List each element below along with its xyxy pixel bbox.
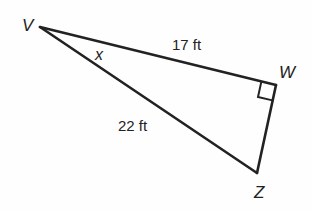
vertex-label-w: W <box>279 63 297 82</box>
vertex-label-v: V <box>22 16 35 35</box>
side-vw <box>40 27 276 85</box>
triangle-svg: V W Z x 17 ft 22 ft <box>0 0 312 211</box>
side-label-vw: 17 ft <box>172 36 202 53</box>
vertex-label-z: Z <box>253 183 265 202</box>
side-vz <box>40 27 257 173</box>
triangle-diagram: V W Z x 17 ft 22 ft <box>0 0 312 211</box>
side-label-vz: 22 ft <box>118 117 148 134</box>
angle-label-x: x <box>94 46 104 63</box>
